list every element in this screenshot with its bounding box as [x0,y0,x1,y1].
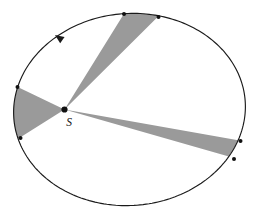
sector-lower-right-shaded-area [65,110,239,157]
sector-top-shaded-area [65,13,159,109]
focus-point-dot [61,106,67,112]
endpoint-top-right-dot [157,15,161,19]
endpoint-right-upper-dot [239,139,243,143]
orbit-diagram-canvas: S [0,0,257,216]
sector-left-shaded-area [14,87,65,139]
endpoint-top-left-dot [122,12,126,16]
endpoint-left-lower-dot [19,136,23,140]
endpoint-right-lower-dot [232,157,236,161]
focus-point-label: S [66,116,72,128]
orbit-diagram: S [0,0,257,216]
endpoint-left-upper-dot [16,85,20,89]
orbit-direction-arrow-icon [55,35,65,43]
